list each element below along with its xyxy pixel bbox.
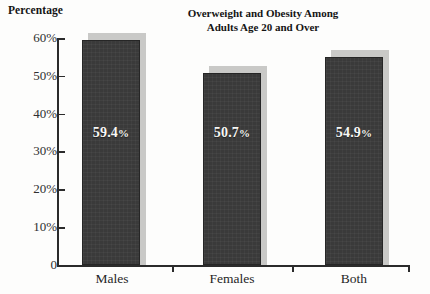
y-tick-label-0: 0 xyxy=(13,257,57,273)
y-tick-mark-40 xyxy=(57,114,65,116)
bar-value-suffix-females: % xyxy=(239,127,250,139)
y-tick-mark-20 xyxy=(57,189,65,191)
plot-area: 60% 50% 40% 30% 20% 10% 0 xyxy=(0,0,430,294)
y-tick-mark-60 xyxy=(57,38,65,40)
y-tick-label-50: 50% xyxy=(13,68,57,84)
y-tick-label-60: 60% xyxy=(13,30,57,46)
bar-males[interactable]: 59.4% xyxy=(82,40,140,265)
bar-value-both: 54.9% xyxy=(326,125,382,141)
bar-value-males: 59.4% xyxy=(83,125,139,141)
x-tick-mark-3 xyxy=(408,265,410,272)
y-tick-label-30: 30% xyxy=(13,143,57,159)
x-label-both: Both xyxy=(314,271,394,287)
y-tick-mark-30 xyxy=(57,151,65,153)
x-tick-mark-2 xyxy=(292,265,294,272)
bar-value-suffix-both: % xyxy=(361,127,372,139)
y-tick-label-10: 10% xyxy=(13,219,57,235)
bar-value-number-both: 54.9 xyxy=(336,125,361,140)
bar-females[interactable]: 50.7% xyxy=(203,73,261,265)
bar-value-females: 50.7% xyxy=(204,125,260,141)
x-label-males: Males xyxy=(72,271,152,287)
x-label-females: Females xyxy=(192,271,272,287)
y-tick-mark-50 xyxy=(57,76,65,78)
bar-both[interactable]: 54.9% xyxy=(325,57,383,265)
y-tick-label-40: 40% xyxy=(13,106,57,122)
x-axis-line xyxy=(57,265,410,267)
bar-value-number-females: 50.7 xyxy=(214,125,239,140)
bar-value-suffix-males: % xyxy=(118,127,129,139)
y-tick-label-20: 20% xyxy=(13,181,57,197)
bar-value-number-males: 59.4 xyxy=(93,125,118,140)
x-tick-mark-1 xyxy=(172,265,174,272)
bar-chart: Percentage Overweight and Obesity Among … xyxy=(0,0,430,294)
y-tick-mark-10 xyxy=(57,227,65,229)
